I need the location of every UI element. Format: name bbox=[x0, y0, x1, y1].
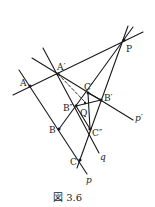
label-a: A bbox=[19, 78, 27, 88]
figure-3-6: P A A′ B C B′ C′ B″ C″ Q p p′ q 図 3.6 bbox=[0, 0, 155, 207]
label-b1: B′ bbox=[104, 93, 113, 103]
label-a1: A′ bbox=[56, 62, 66, 72]
label-line-p1: p′ bbox=[135, 113, 143, 123]
label-c2: C″ bbox=[92, 128, 103, 138]
figure-caption: 図 3.6 bbox=[53, 192, 82, 203]
geometry-diagram: P A A′ B C B′ C′ B″ C″ Q p p′ q 図 3.6 bbox=[0, 0, 155, 207]
label-b2: B″ bbox=[63, 103, 74, 113]
label-c1: C′ bbox=[84, 82, 93, 92]
label-c: C bbox=[70, 157, 77, 167]
label-p-point: P bbox=[126, 44, 132, 54]
edge-c1-b1 bbox=[88, 93, 101, 100]
edge-c1-c2 bbox=[88, 93, 90, 129]
label-line-q: q bbox=[100, 152, 106, 162]
line-q bbox=[43, 48, 99, 153]
label-q-point: Q bbox=[80, 108, 87, 118]
line-c-p bbox=[77, 26, 128, 168]
label-line-p: p bbox=[86, 175, 92, 185]
label-b: B bbox=[49, 125, 56, 135]
